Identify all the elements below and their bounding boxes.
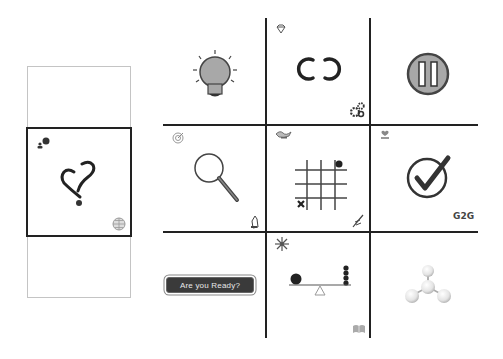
g2g-label: G2G <box>453 211 474 221</box>
slot-empty-bottom[interactable] <box>27 236 131 298</box>
pause-icon <box>406 52 450 96</box>
diamond-icon <box>275 24 287 34</box>
cell-molecule[interactable] <box>371 233 478 339</box>
target-icon <box>172 132 184 144</box>
globe-grid-icon <box>112 217 126 231</box>
genie-lamp-icon <box>275 129 293 139</box>
checkmark-icon <box>406 152 454 200</box>
cell-infinity[interactable] <box>267 18 370 124</box>
quill-icon <box>351 214 365 228</box>
book-icon <box>352 324 366 334</box>
lightbulb-icon <box>187 48 243 100</box>
seesaw-icon <box>289 263 353 301</box>
heart-question-icon <box>58 159 102 207</box>
cell-search[interactable] <box>163 126 266 232</box>
gears-icon <box>349 102 365 118</box>
infinity-icon <box>295 54 343 84</box>
user-hint-icon <box>36 137 50 149</box>
tic-tac-toe-icon <box>293 156 351 214</box>
cell-pause[interactable] <box>371 18 478 124</box>
heart-hand-icon <box>379 130 391 140</box>
magnifier-icon <box>191 150 243 206</box>
molecule-icon <box>403 265 453 305</box>
cell-check[interactable]: G2G <box>371 126 478 232</box>
hand-icon <box>249 215 261 229</box>
are-you-ready-button[interactable]: Are you Ready? <box>166 277 254 293</box>
cell-balance[interactable] <box>267 233 370 339</box>
snowflake-icon <box>275 237 289 251</box>
cell-lightbulb[interactable] <box>163 18 266 124</box>
slot-empty-top[interactable] <box>27 66 131 128</box>
cell-tictactoe[interactable] <box>267 126 370 232</box>
slot-selected[interactable] <box>26 127 132 237</box>
